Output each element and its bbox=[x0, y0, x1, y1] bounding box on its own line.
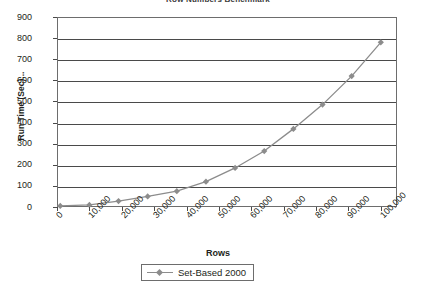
x-axis-title: Rows bbox=[0, 248, 436, 258]
y-axis-tick-label: 700 bbox=[0, 55, 32, 64]
y-axis-tick-mark bbox=[53, 38, 57, 39]
y-axis-tick-label: 100 bbox=[0, 181, 32, 190]
series-data-point-marker bbox=[203, 179, 209, 185]
y-axis-tick-mark bbox=[53, 101, 57, 102]
chart-legend[interactable]: Set-Based 2000 bbox=[141, 264, 254, 281]
series-data-point-marker bbox=[57, 203, 63, 209]
y-axis-tick-mark bbox=[53, 59, 57, 60]
legend-series-marker-icon bbox=[147, 268, 173, 277]
series-data-point-marker bbox=[115, 198, 121, 204]
y-axis-tick-label: 600 bbox=[0, 76, 32, 85]
y-axis-tick-mark bbox=[53, 80, 57, 81]
chart-container: Row Numbers Benchmark Run Time (Sec)... … bbox=[0, 0, 436, 288]
data-series-set-based-2000 bbox=[57, 17, 397, 207]
y-axis-tick-mark bbox=[53, 186, 57, 187]
y-axis-tick-label: 900 bbox=[0, 13, 32, 22]
y-axis-tick-label: 500 bbox=[0, 97, 32, 106]
y-axis-tick-mark bbox=[53, 17, 57, 18]
series-line bbox=[60, 42, 381, 206]
y-axis-tick-mark bbox=[53, 123, 57, 124]
y-axis-tick-mark bbox=[53, 144, 57, 145]
y-axis-tick-mark bbox=[53, 165, 57, 166]
y-axis-tick-label: 0 bbox=[0, 203, 32, 212]
y-axis-tick-label: 400 bbox=[0, 118, 32, 127]
y-axis-tick-label: 200 bbox=[0, 160, 32, 169]
series-data-point-marker bbox=[232, 165, 238, 171]
legend-label-set-based-2000: Set-Based 2000 bbox=[178, 267, 246, 278]
series-data-point-marker bbox=[145, 193, 151, 199]
y-axis-tick-label: 300 bbox=[0, 139, 32, 148]
chart-title: Row Numbers Benchmark bbox=[0, 0, 436, 4]
series-data-point-marker bbox=[174, 188, 180, 194]
x-axis-tick-label: 0 bbox=[54, 209, 65, 220]
y-axis-tick-label: 800 bbox=[0, 34, 32, 43]
